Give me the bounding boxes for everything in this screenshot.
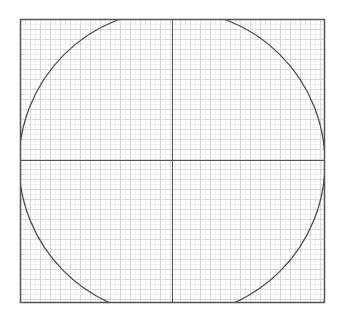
circle-grid-diagram	[0, 0, 341, 318]
diagram-canvas	[0, 0, 341, 318]
